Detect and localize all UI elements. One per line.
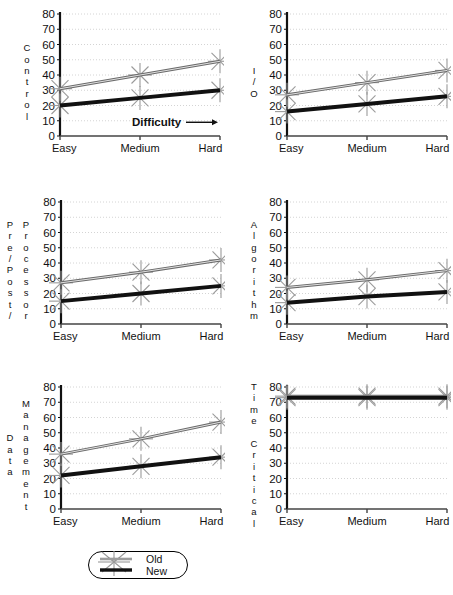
y-tick-label: 60: [43, 227, 56, 239]
y-tick-label: 60: [269, 39, 282, 51]
x-tick-labels: EasyMediumHard: [261, 142, 451, 158]
y-tick-label: 0: [276, 318, 282, 330]
y-tick-label: 80: [269, 196, 282, 208]
y-tick-label: 40: [269, 257, 282, 269]
arrow-right-icon: [186, 119, 218, 125]
x-tick-labels: EasyMediumHard: [35, 330, 225, 346]
x-tick-label: Easy: [53, 330, 77, 342]
y-tick-label: 0: [49, 130, 55, 142]
x-tick-label: Hard: [200, 515, 224, 527]
y-tick-label: 60: [269, 227, 282, 239]
y-tick-label: 40: [269, 69, 282, 81]
x-tick-label: Easy: [52, 142, 76, 154]
y-tick-label: 20: [269, 473, 282, 485]
x-tick-label: Easy: [279, 515, 303, 527]
y-tick-label: 50: [269, 242, 282, 254]
y-tick-label: 60: [42, 39, 55, 51]
legend: Old New: [88, 551, 196, 585]
y-tick-label: 50: [269, 54, 282, 66]
y-tick-label: 50: [43, 427, 56, 439]
y-tick-label: 50: [43, 242, 56, 254]
legend-markers: [92, 551, 152, 581]
y-axis-label-outer: D a t a: [3, 432, 17, 478]
y-tick-label: 60: [43, 412, 56, 424]
chart-panel: P r e / P o s t /P r o c e s s o r010203…: [0, 190, 226, 371]
y-tick-label: 10: [42, 115, 55, 127]
y-tick-label: 50: [42, 54, 55, 66]
chart-panel: A l g o r i t h m01020304050607080EasyMe…: [227, 190, 453, 371]
y-axis-label-outer: P r e / P o s t /: [3, 219, 17, 322]
y-axis-label: M a n a g e m e n t: [19, 398, 33, 512]
x-tick-label: Hard: [199, 142, 223, 154]
x-tick-label: Medium: [347, 142, 386, 154]
y-tick-label: 20: [269, 288, 282, 300]
y-tick-label: 80: [42, 8, 55, 20]
y-tick-label: 80: [43, 196, 56, 208]
y-tick-label: 0: [276, 503, 282, 515]
x-tick-labels: EasyMediumHard: [34, 142, 224, 158]
y-tick-label: 80: [43, 381, 56, 393]
x-tick-label: Easy: [279, 330, 303, 342]
y-tick-label: 70: [42, 23, 55, 35]
chart-grid: C o n t r o l01020304050607080Difficulty…: [0, 0, 453, 545]
x-tick-label: Easy: [279, 142, 303, 154]
y-tick-label: 40: [42, 69, 55, 81]
y-tick-label: 10: [43, 488, 56, 500]
x-tick-label: Medium: [347, 515, 386, 527]
y-axis-label: T i m e C r i t i c a l: [247, 381, 261, 529]
chart-panel: D a t aM a n a g e m e n t01020304050607…: [0, 375, 226, 556]
y-tick-label: 0: [50, 503, 56, 515]
x-tick-label: Easy: [53, 515, 77, 527]
legend-item-new[interactable]: New: [146, 565, 167, 577]
y-tick-label: 70: [269, 211, 282, 223]
y-axis-label: I / O: [247, 65, 261, 99]
y-tick-label: 40: [269, 442, 282, 454]
chart-panel: C o n t r o l01020304050607080Difficulty…: [0, 2, 226, 183]
y-tick-label: 10: [269, 303, 282, 315]
y-axis-label: A l g o r i t h m: [247, 219, 261, 322]
x-tick-label: Hard: [426, 515, 450, 527]
legend-item-old[interactable]: Old: [146, 553, 167, 565]
x-tick-label: Medium: [121, 330, 160, 342]
y-axis-label: C o n t r o l: [20, 42, 34, 122]
y-axis-label: P r o c e s s o r: [19, 219, 33, 322]
y-tick-label: 40: [43, 442, 56, 454]
x-tick-label: Medium: [120, 142, 159, 154]
x-tick-labels: EasyMediumHard: [261, 515, 451, 531]
y-tick-label: 30: [269, 272, 282, 284]
x-tick-label: Hard: [426, 330, 450, 342]
y-tick-label: 40: [43, 257, 56, 269]
x-tick-label: Medium: [121, 515, 160, 527]
y-tick-label: 10: [269, 488, 282, 500]
y-tick-label: 10: [269, 115, 282, 127]
y-tick-label: 50: [269, 427, 282, 439]
x-tick-label: Hard: [200, 330, 224, 342]
x-tick-labels: EasyMediumHard: [261, 330, 451, 346]
y-tick-label: 70: [269, 23, 282, 35]
y-tick-label: 0: [50, 318, 56, 330]
y-tick-label: 30: [43, 457, 56, 469]
data-point-markers: [49, 410, 225, 487]
data-point-markers: [275, 58, 451, 123]
y-tick-label: 30: [42, 84, 55, 96]
y-tick-label: 60: [269, 412, 282, 424]
y-tick-label: 70: [43, 211, 56, 223]
y-tick-label: 80: [269, 8, 282, 20]
y-tick-label: 70: [43, 396, 56, 408]
y-tick-label: 0: [276, 130, 282, 142]
chart-panel: I / O01020304050607080EasyMediumHard: [227, 2, 453, 183]
x-tick-label: Medium: [347, 330, 386, 342]
x-axis-annotation: Difficulty: [132, 116, 182, 128]
x-tick-label: Hard: [426, 142, 450, 154]
x-tick-labels: EasyMediumHard: [35, 515, 225, 531]
chart-panel: T i m e C r i t i c a l01020304050607080…: [227, 375, 453, 556]
y-tick-label: 30: [269, 457, 282, 469]
